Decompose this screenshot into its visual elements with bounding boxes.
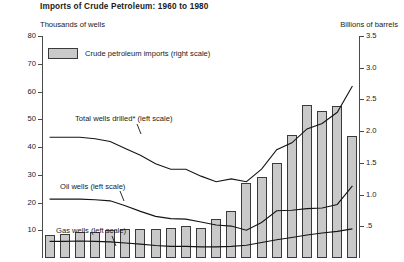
right-tick-label: .5 xyxy=(366,222,372,230)
legend-swatch-crude-petroleum-imports xyxy=(48,48,78,59)
legend: Crude petroleum imports (right scale) xyxy=(48,48,210,59)
right-tick-label: 2.0 xyxy=(366,127,377,135)
right-tick-label: 3.0 xyxy=(366,64,377,72)
series-label-total-wells-drilled: Total wells drilled* (left scale) xyxy=(75,114,173,123)
right-tick-label: 1.5 xyxy=(366,159,377,167)
series-label-oil-wells: Oil wells (left scale) xyxy=(60,182,125,191)
right-tick-label: 3.5 xyxy=(366,32,377,40)
left-tick-label: 60 xyxy=(28,88,36,96)
leader-gas xyxy=(112,236,116,246)
series-label-gas-wells: Gas wells (left scale) xyxy=(56,226,126,235)
left-tick-label: 20 xyxy=(28,199,36,207)
left-tick-label: 10 xyxy=(28,226,36,234)
left-tick-label: 50 xyxy=(28,115,36,123)
left-axis-title: Thousands of wells xyxy=(40,20,105,29)
left-tick-label: 40 xyxy=(28,143,36,151)
left-tick-label: 30 xyxy=(28,171,36,179)
left-tick-label: 80 xyxy=(28,32,36,40)
right-axis-title: Billions of barrels xyxy=(340,20,398,29)
plot-area: 8070605040302010 3.53.02.52.01.51.0.5 xyxy=(42,36,360,258)
leader-oil xyxy=(120,191,124,201)
label-leader-lines xyxy=(42,36,360,258)
right-tick-label: 1.0 xyxy=(366,191,377,199)
leader-total xyxy=(137,124,141,134)
right-tick-label: 2.5 xyxy=(366,95,377,103)
chart-title: Imports of Crude Petroleum: 1960 to 1980 xyxy=(40,2,209,11)
left-tick-label: 70 xyxy=(28,60,36,68)
legend-label-crude-petroleum-imports: Crude petroleum imports (right scale) xyxy=(85,49,210,58)
